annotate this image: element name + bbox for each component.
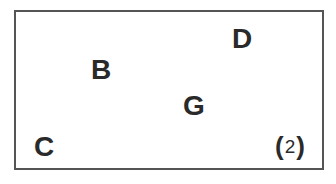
panel-number: (2) [275,133,305,159]
label-c: C [34,133,54,161]
paren-open: ( [275,131,284,161]
label-d: D [232,25,252,53]
label-g: G [183,92,205,120]
label-b: B [91,56,111,84]
panel-number-value: 2 [284,136,297,157]
paren-close: ) [296,131,305,161]
diagram-panel: D B G C (2) [14,10,324,170]
